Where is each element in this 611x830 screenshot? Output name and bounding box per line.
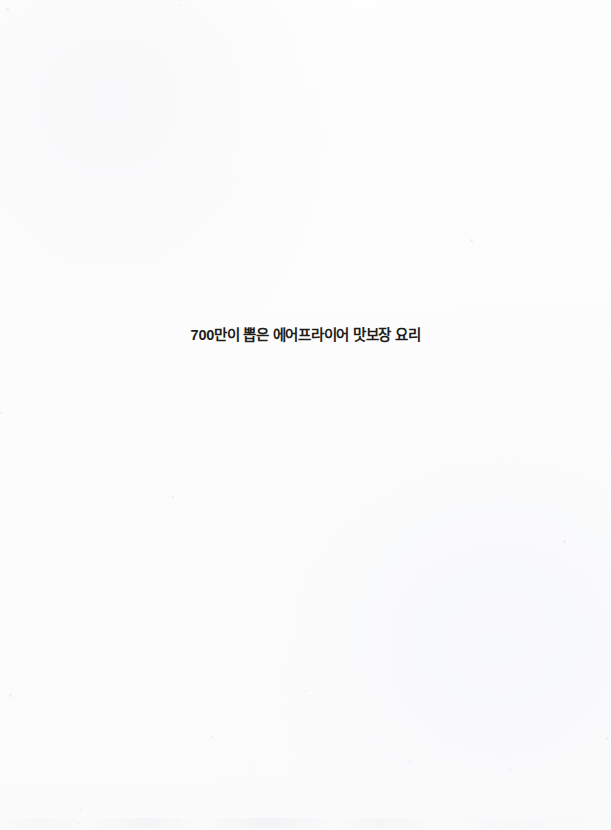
scan-speckle [470, 239, 473, 242]
scan-speckle [211, 736, 213, 738]
scan-speckle [305, 690, 307, 692]
page-title: 700만이 뽑은 에어프라이어 맛보장 요리 [191, 327, 421, 344]
paper-texture [0, 0, 611, 830]
scan-speckle [0, 412, 2, 414]
scan-speckle [6, 8, 9, 11]
scan-speckle [606, 737, 609, 740]
scanned-page: 700만이 뽑은 에어프라이어 맛보장 요리 [0, 0, 611, 830]
scan-speckle [509, 769, 511, 771]
scan-speckle [172, 496, 174, 498]
scan-speckle [409, 760, 411, 762]
scan-speckle [9, 694, 12, 697]
scan-smudge-artifact [0, 818, 611, 828]
scan-speckle [78, 822, 80, 824]
scan-speckle [178, 4, 180, 6]
scan-speckle [80, 809, 82, 811]
scan-speckle [563, 540, 566, 543]
headline-block: 700만이 뽑은 에어프라이어 맛보장 요리 [0, 326, 611, 344]
